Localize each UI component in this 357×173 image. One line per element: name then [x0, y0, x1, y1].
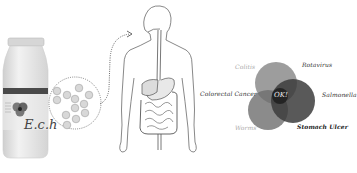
label-colitis: Colitis	[235, 63, 255, 70]
bottle-cap	[8, 38, 44, 46]
human-digestive-system	[120, 6, 197, 152]
label-rotavirus: Rotavirus	[302, 61, 332, 68]
dotted-arrow	[100, 34, 130, 104]
arrow-head-icon	[127, 31, 132, 37]
label-worms: Worms	[235, 124, 257, 131]
label-stomach-ulcer: Stomach Ulcer	[297, 123, 348, 130]
venn-center-label: OK!	[274, 91, 288, 99]
bottle-brand-text: E.c.h	[24, 117, 57, 132]
bottle-label-band	[3, 88, 48, 94]
probiotic-bottle	[3, 38, 48, 158]
label-colorectal-cancer: Colorectal Cancer	[200, 90, 257, 97]
label-salmonella: Salmonella	[322, 91, 357, 98]
